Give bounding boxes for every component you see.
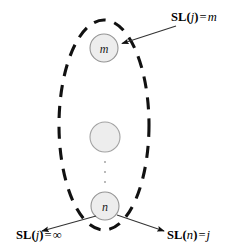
annotation-sl-j-equals-infinity: SL(j)=∞ bbox=[16, 228, 62, 243]
vertical-dot bbox=[104, 181, 106, 183]
vertical-dot bbox=[104, 171, 106, 173]
annotation-function-name: SL bbox=[16, 228, 32, 242]
annotation-operator: = bbox=[44, 228, 53, 242]
node-n-label: n bbox=[102, 200, 108, 214]
annotation-operator: = bbox=[199, 10, 208, 24]
node-m: m bbox=[90, 34, 118, 62]
annotation-value: j bbox=[207, 228, 211, 242]
node-middle-circle bbox=[90, 122, 120, 152]
annotation-function-name: SL bbox=[171, 10, 187, 24]
node-middle bbox=[90, 122, 120, 152]
annotation-close-paren: ) bbox=[194, 10, 198, 24]
annotation-function-name: SL bbox=[167, 228, 183, 242]
annotation-value: ∞ bbox=[53, 228, 62, 242]
arrow-to-node-m bbox=[122, 26, 176, 44]
annotation-sl-n-equals-j: SL(n)=j bbox=[167, 228, 210, 243]
figure-canvas: m n SL(j)=m SL(j)=∞ SL(n)=j bbox=[0, 0, 236, 250]
annotation-value: m bbox=[208, 10, 217, 24]
annotation-sl-j-equals-m: SL(j)=m bbox=[171, 10, 217, 25]
annotation-operator: = bbox=[197, 228, 206, 242]
diagram-svg: m n bbox=[0, 0, 236, 250]
node-m-label: m bbox=[100, 42, 109, 56]
arrow-to-bottom-right bbox=[117, 215, 164, 231]
vertical-dots bbox=[104, 161, 106, 183]
vertical-dot bbox=[104, 161, 106, 163]
annotation-close-paren: ) bbox=[39, 228, 43, 242]
